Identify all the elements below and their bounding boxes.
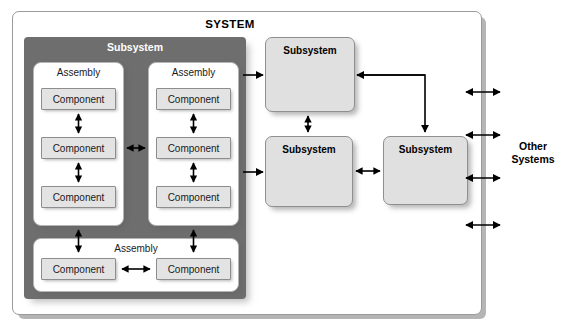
diagram-canvas: SYSTEM Subsystem Assembly Component Comp… xyxy=(0,0,577,332)
component-box: Component xyxy=(41,88,116,110)
assembly-label: Assembly xyxy=(149,67,238,78)
other-systems-line-1: Other xyxy=(494,140,572,153)
component-box: Component xyxy=(156,258,231,280)
component-box: Component xyxy=(41,137,116,159)
component-box: Component xyxy=(156,88,231,110)
component-box: Component xyxy=(156,137,231,159)
component-box: Component xyxy=(41,186,116,208)
other-systems-line-2: Systems xyxy=(494,153,572,166)
assembly-label: Assembly xyxy=(34,243,238,254)
subsystem-box-middle-right: Subsystem xyxy=(383,136,468,205)
other-systems-label: Other Systems xyxy=(494,140,572,166)
subsystem-box-middle-left: Subsystem xyxy=(265,136,353,207)
subsystem-container-label: Subsystem xyxy=(24,41,246,53)
assembly-label: Assembly xyxy=(34,67,123,78)
component-box: Component xyxy=(156,186,231,208)
subsystem-label: Subsystem xyxy=(266,144,352,155)
subsystem-label: Subsystem xyxy=(384,144,467,155)
system-title-label: SYSTEM xyxy=(160,18,300,30)
component-box: Component xyxy=(41,258,116,280)
subsystem-label: Subsystem xyxy=(266,45,354,56)
subsystem-box-top-right: Subsystem xyxy=(265,37,355,112)
